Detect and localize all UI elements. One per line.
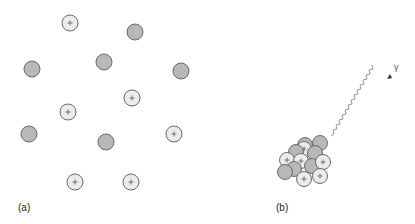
proton-icon (60, 104, 76, 120)
neutron-icon (278, 165, 293, 180)
panel-a-label: (a) (18, 202, 30, 213)
gamma-label: γ (394, 62, 399, 72)
neutron-icon (21, 126, 37, 142)
neutron-icon (127, 24, 143, 40)
nuclear-diagram (0, 0, 415, 224)
panel-b-label: (b) (276, 202, 288, 213)
neutron-icon (24, 61, 40, 77)
proton-icon (313, 169, 328, 184)
proton-icon (67, 174, 83, 190)
neutron-icon (173, 63, 189, 79)
proton-icon (124, 90, 140, 106)
neutron-icon (98, 134, 114, 150)
proton-icon (62, 15, 78, 31)
proton-icon (297, 172, 312, 187)
gamma-arrowhead-icon (387, 74, 392, 79)
gamma-ray-wave (331, 65, 373, 136)
proton-icon (166, 126, 182, 142)
panel-a-scattered-nucleons (21, 15, 189, 190)
panel-b-nucleus (278, 136, 331, 187)
proton-icon (123, 174, 139, 190)
neutron-icon (96, 54, 112, 70)
proton-icon (316, 155, 331, 170)
